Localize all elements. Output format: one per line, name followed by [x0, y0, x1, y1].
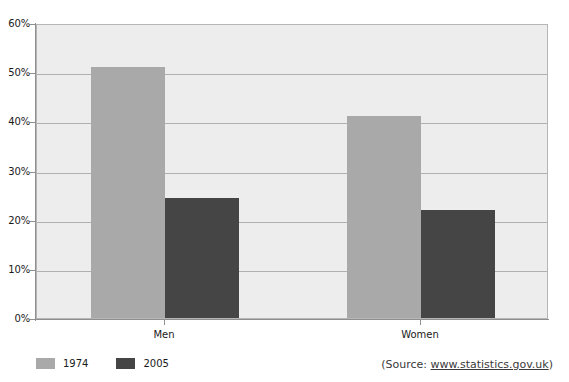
y-axis-tick — [30, 122, 36, 123]
source-suffix: ) — [549, 358, 553, 371]
y-axis-label: 0% — [2, 314, 30, 324]
legend-item-2005[interactable]: 2005 — [116, 358, 168, 369]
legend-swatch-icon — [36, 358, 55, 369]
bar-women-2005 — [421, 210, 495, 318]
source-url[interactable]: www.statistics.gov.uk — [430, 358, 548, 371]
x-axis-label-men: Men — [124, 329, 204, 341]
x-axis-tick — [420, 320, 421, 325]
y-axis-label: 60% — [2, 19, 30, 29]
y-axis-tick — [30, 221, 36, 222]
bar-women-1974 — [347, 116, 421, 318]
legend-label: 2005 — [143, 358, 168, 369]
chart-legend: 19742005 — [36, 358, 197, 369]
y-axis-label: 20% — [2, 216, 30, 226]
source-prefix: (Source: — [381, 358, 430, 371]
x-axis-tick — [164, 320, 165, 325]
y-axis-label: 50% — [2, 68, 30, 78]
bar-men-2005 — [165, 198, 239, 318]
y-axis-label: 40% — [2, 117, 30, 127]
x-axis-label-women: Women — [380, 329, 460, 341]
y-axis-label: 30% — [2, 167, 30, 177]
y-axis-tick — [30, 24, 36, 25]
bar-men-1974 — [91, 67, 165, 318]
y-axis-tick — [30, 319, 36, 320]
legend-swatch-icon — [116, 358, 135, 369]
source-note: (Source: www.statistics.gov.uk) — [381, 358, 553, 371]
y-axis-tick — [30, 73, 36, 74]
legend-label: 1974 — [63, 358, 88, 369]
plot-area — [36, 24, 548, 319]
y-axis-label: 10% — [2, 265, 30, 275]
y-axis-labels: 0%10%20%30%40%50%60% — [0, 0, 30, 382]
y-axis-tick — [30, 270, 36, 271]
y-axis-tick — [30, 172, 36, 173]
x-axis-line — [35, 319, 549, 320]
legend-item-1974[interactable]: 1974 — [36, 358, 88, 369]
chart-title — [0, 0, 569, 13]
